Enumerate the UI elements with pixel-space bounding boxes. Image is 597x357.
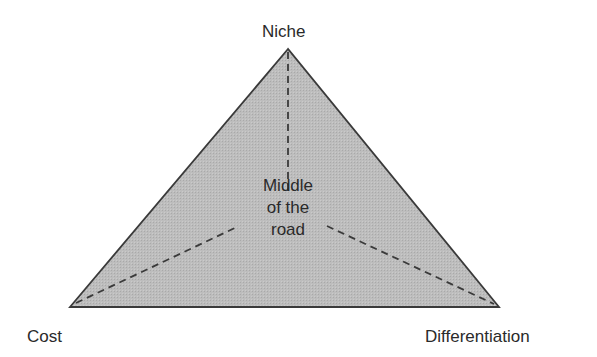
center-line-2: of the bbox=[238, 197, 338, 219]
center-line-1: Middle bbox=[238, 175, 338, 197]
center-line-3: road bbox=[238, 219, 338, 241]
label-middle-of-the-road: Middle of the road bbox=[238, 175, 338, 241]
label-cost: Cost bbox=[27, 327, 62, 347]
label-differentiation: Differentiation bbox=[425, 327, 530, 347]
label-niche: Niche bbox=[262, 22, 305, 42]
